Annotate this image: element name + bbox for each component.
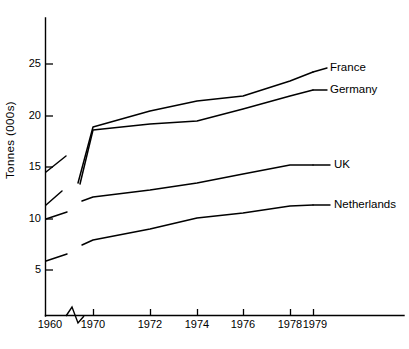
series-line-germany (80, 90, 313, 184)
chart-canvas: 25 20 15 10 5 Tonnes (000s) 1960 1970 19… (0, 0, 409, 349)
line-chart: 25 20 15 10 5 Tonnes (000s) 1960 1970 19… (0, 0, 409, 349)
series-stub-germany (46, 191, 62, 205)
y-tick-label-15: 15 (29, 160, 41, 172)
y-tick-label-10: 10 (29, 212, 41, 224)
series-stub-france (46, 156, 66, 172)
y-tick-label-5: 5 (35, 263, 41, 275)
x-tick-label-1978: 1978 (278, 318, 302, 330)
series-label-france: France (330, 61, 366, 73)
series-label-germany: Germany (330, 83, 378, 95)
series-label-netherlands: Netherlands (334, 198, 396, 210)
x-axis-ticks (94, 309, 314, 316)
series-line-uk (82, 165, 313, 201)
leader-line-france (313, 68, 327, 72)
y-tick-label-20: 20 (29, 109, 41, 121)
x-tick-label-1970: 1970 (81, 318, 105, 330)
series-stub-netherlands (46, 254, 67, 261)
x-tick-label-1972: 1972 (138, 318, 162, 330)
x-tick-label-1974: 1974 (185, 318, 209, 330)
series-stub-uk (46, 212, 67, 219)
series-line-netherlands (82, 205, 313, 245)
y-axis-title: Tonnes (000s) (4, 101, 16, 179)
x-tick-label-1979: 1979 (303, 318, 327, 330)
y-tick-label-25: 25 (29, 57, 41, 69)
x-tick-label-1960: 1960 (38, 318, 62, 330)
series-label-uk: UK (334, 158, 350, 170)
x-tick-label-1976: 1976 (231, 318, 255, 330)
